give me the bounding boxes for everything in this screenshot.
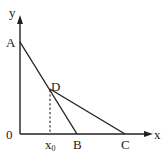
x-axis-arrow-icon: [144, 131, 153, 137]
point-a-label: A: [6, 35, 16, 50]
point-b-label: B: [73, 137, 82, 152]
y-axis-label: y: [9, 5, 16, 20]
y-axis-arrow-icon: [17, 15, 23, 24]
line-dc: [50, 89, 125, 134]
x-axis-label: x: [154, 127, 161, 142]
point-d-label: D: [51, 79, 60, 94]
line-ab: [20, 42, 77, 134]
coordinate-diagram: y A D 0 x0 B C x: [0, 0, 167, 153]
origin-label: 0: [6, 127, 13, 142]
point-c-label: C: [121, 137, 130, 152]
x0-label: x0: [45, 137, 56, 153]
